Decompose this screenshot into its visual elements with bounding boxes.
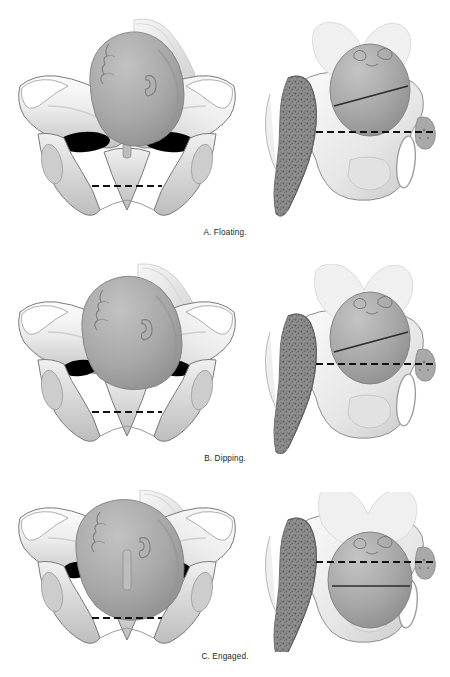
- panel-a-floating: A. Floating.: [0, 0, 450, 248]
- anterior-pelvic-view-c: [8, 490, 246, 652]
- lateral-pelvic-view-b: [258, 264, 446, 454]
- ischial-spine-c: [415, 547, 435, 579]
- lateral-pelvic-view-c: [258, 492, 446, 652]
- figure-fetal-head-engagement: A. Floating.: [0, 0, 450, 677]
- panel-caption-b: B. Dipping.: [0, 454, 450, 463]
- panel-caption-a: A. Floating.: [0, 228, 450, 237]
- symphysis-pubis-c: [123, 550, 131, 590]
- anterior-pelvic-view-a: [8, 14, 246, 230]
- ischial-spine-a: [415, 117, 435, 149]
- sacrum-cut-cancellous-c: [266, 518, 317, 652]
- anterior-pelvic-view-b: [8, 262, 246, 454]
- lateral-pelvic-view-a: [258, 14, 446, 230]
- panel-caption-c: C. Engaged.: [0, 652, 450, 661]
- sacrum-cut-cancellous-b: [266, 314, 317, 454]
- panel-c-engaged: C. Engaged.: [0, 488, 450, 677]
- sacrum-cut-cancellous-a: [266, 76, 317, 216]
- panel-b-dipping: B. Dipping.: [0, 258, 450, 478]
- ischial-spine-b: [415, 349, 435, 381]
